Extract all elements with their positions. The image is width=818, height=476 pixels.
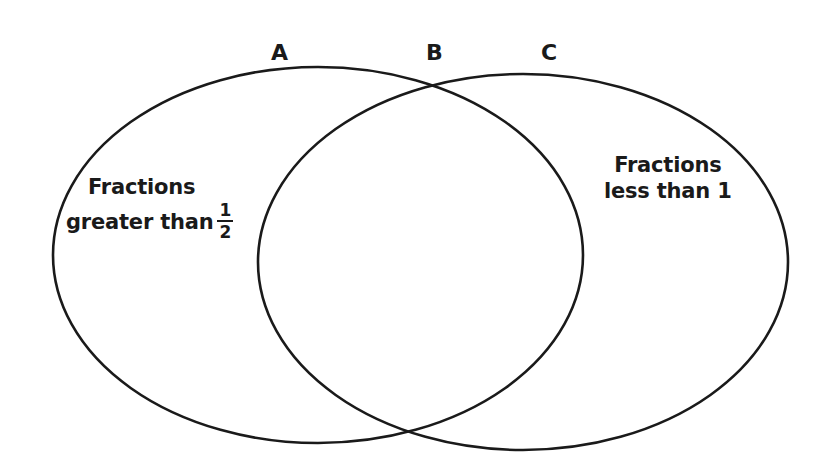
right-set-label: Fractions less than 1	[604, 152, 732, 204]
region-label-a: A	[271, 42, 288, 64]
fraction-numerator: 1	[217, 201, 233, 222]
left-set-ellipse	[53, 67, 583, 443]
right-set-line1: Fractions	[604, 152, 732, 178]
left-set-line2: greater than12	[66, 203, 233, 243]
region-label-c: C	[541, 42, 557, 64]
left-set-label: Fractions greater than12	[66, 174, 233, 243]
left-set-line1: Fractions	[66, 174, 233, 200]
fraction-denominator: 2	[217, 222, 233, 241]
one-half-fraction: 12	[217, 201, 233, 241]
venn-diagram: A B C Fractions greater than12 Fractions…	[0, 0, 818, 476]
right-set-line2: less than 1	[604, 178, 732, 204]
region-label-b: B	[426, 42, 443, 64]
right-set-ellipse	[258, 74, 788, 450]
left-set-line2-text: greater than	[66, 210, 213, 234]
